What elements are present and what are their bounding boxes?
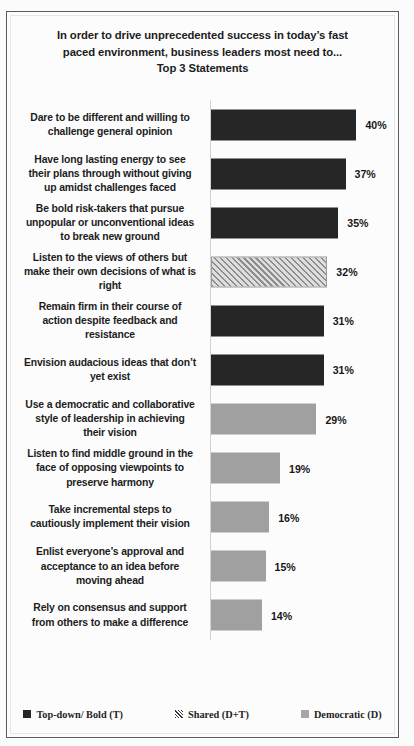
bar-with-value: 31% — [211, 354, 354, 385]
bar-democratic — [211, 600, 262, 631]
bar-topdown — [211, 109, 356, 140]
bar-democratic — [211, 404, 316, 435]
legend-item-shared[interactable]: Shared (D+T) — [175, 709, 249, 720]
bar-value-label: 29% — [325, 413, 346, 425]
legend-item-topdown[interactable]: Top-down/ Bold (T) — [23, 709, 123, 720]
bar-value-label: 31% — [333, 315, 354, 327]
bar-value-label: 35% — [347, 217, 368, 229]
category-label: Take incremental steps to cautiously imp… — [13, 503, 207, 531]
category-label: Listen to find middle ground in the face… — [13, 447, 207, 490]
bar-topdown — [211, 354, 324, 385]
chart-frame: In order to drive unprecedented success … — [6, 11, 399, 738]
bar-democratic — [211, 502, 269, 533]
bar-with-value: 15% — [211, 551, 296, 582]
bar-with-value: 35% — [211, 207, 368, 238]
bar-row: Envision audacious ideas that don’t yet … — [11, 345, 396, 394]
category-label: Use a democratic and collaborative style… — [13, 398, 207, 441]
bar-row: Enlist everyone’s approval and acceptanc… — [11, 542, 396, 591]
bar-value-label: 14% — [271, 609, 292, 621]
bar-topdown — [211, 158, 346, 189]
bar-value-label: 31% — [333, 364, 354, 376]
chart-inner-border: In order to drive unprecedented success … — [10, 15, 395, 734]
category-label: Dare to be different and willing to chal… — [13, 110, 207, 138]
bar-value-label: 40% — [365, 119, 386, 131]
bar-with-value: 14% — [211, 600, 292, 631]
bar-row: Rely on consensus and support from other… — [11, 591, 396, 640]
bar-value-label: 37% — [355, 168, 376, 180]
bar-row: Remain firm in their course of action de… — [11, 296, 396, 345]
bar-with-value: 16% — [211, 502, 299, 533]
bar-democratic — [211, 551, 266, 582]
bar-with-value: 31% — [211, 305, 354, 336]
bar-value-label: 15% — [275, 560, 296, 572]
category-label: Envision audacious ideas that don’t yet … — [13, 356, 207, 384]
category-label: Remain firm in their course of action de… — [13, 300, 207, 343]
category-label: Enlist everyone’s approval and acceptanc… — [13, 545, 207, 588]
bar-topdown — [211, 207, 338, 238]
legend-swatch-shared-icon — [175, 710, 183, 718]
category-label: Listen to the views of others but make t… — [13, 250, 207, 293]
chart-legend: Top-down/ Bold (T)Shared (D+T)Democratic… — [11, 704, 394, 724]
bar-with-value: 32% — [211, 256, 358, 287]
bar-democratic — [211, 453, 280, 484]
bar-topdown — [211, 305, 324, 336]
bar-with-value: 37% — [211, 158, 376, 189]
legend-item-democratic[interactable]: Democratic (D) — [301, 709, 382, 720]
bar-with-value: 40% — [211, 109, 387, 140]
bar-value-label: 16% — [278, 511, 299, 523]
bar-row: Be bold risk-takers that pursue unpopula… — [11, 198, 396, 247]
category-label: Be bold risk-takers that pursue unpopula… — [13, 201, 207, 244]
bar-row: Listen to find middle ground in the face… — [11, 444, 396, 493]
bar-shared — [211, 256, 327, 287]
legend-label: Democratic (D) — [314, 709, 382, 720]
legend-swatch-democratic-icon — [301, 710, 309, 718]
bar-row: Dare to be different and willing to chal… — [11, 100, 396, 149]
category-label: Rely on consensus and support from other… — [13, 601, 207, 629]
bar-with-value: 19% — [211, 453, 310, 484]
category-label: Have long lasting energy to see their pl… — [13, 152, 207, 195]
bar-chart-plot-area: Dare to be different and willing to chal… — [11, 100, 396, 640]
legend-swatch-topdown-icon — [23, 710, 31, 718]
chart-title: In order to drive unprecedented success … — [11, 27, 394, 77]
bar-row: Use a democratic and collaborative style… — [11, 395, 396, 444]
bar-value-label: 32% — [336, 266, 357, 278]
bar-row: Take incremental steps to cautiously imp… — [11, 493, 396, 542]
bar-row: Have long lasting energy to see their pl… — [11, 149, 396, 198]
bar-with-value: 29% — [211, 404, 347, 435]
legend-label: Top-down/ Bold (T) — [36, 709, 123, 720]
legend-label: Shared (D+T) — [188, 709, 249, 720]
bar-value-label: 19% — [289, 462, 310, 474]
bar-row: Listen to the views of others but make t… — [11, 247, 396, 296]
